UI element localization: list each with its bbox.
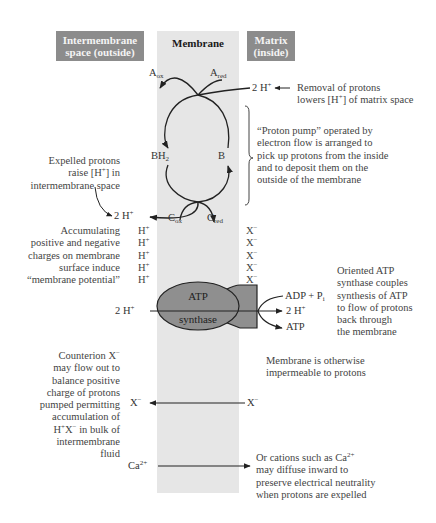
annotation-removal: Removal of protons lowers [H+] of matrix… — [297, 82, 414, 107]
label-c-red: Cred — [207, 212, 223, 223]
label-2h-matrix: 2 H+ — [252, 82, 271, 93]
atp-synthase-label-2: synthase — [158, 313, 238, 325]
annotation-cations: Or cations such as Ca2+ may diffuse inwa… — [256, 452, 376, 501]
label-b: B — [218, 150, 225, 161]
label-a-red: Ared — [210, 67, 227, 78]
annotation-impermeable: Membrane is otherwise impermeable to pro… — [266, 355, 366, 380]
h-plus-column: H+ H+ H+ H+ H+ — [138, 225, 150, 286]
annotation-counterion: Counterion X− may flow out to balance po… — [10, 350, 120, 461]
right-upper-arc — [198, 95, 229, 148]
x-minus-column: X− X− X− X− X− — [246, 225, 258, 286]
label-atp: ATP — [286, 321, 305, 332]
atp-synthase-label-1: ATP — [158, 290, 238, 302]
adp-to-atp-arrow — [258, 296, 283, 328]
left-lower-arc — [166, 165, 198, 202]
label-2h-intermembrane: 2 H+ — [114, 210, 133, 221]
right-lower-arc — [198, 166, 229, 202]
a-ox-arrow — [160, 78, 198, 95]
proton-uptake-line — [198, 88, 250, 95]
label-a-ox: Aox — [149, 67, 164, 78]
label-2h-synthase-in: 2 H+ — [115, 305, 134, 316]
label-x-minus-intermembrane: X− — [130, 397, 142, 408]
left-upper-arc — [165, 95, 198, 148]
label-adp-pi: ADP + Pi — [285, 290, 325, 301]
annotation-expelled: Expelled protons raise [H+] in intermemb… — [20, 155, 120, 192]
label-ca2-plus: Ca2+ — [128, 460, 147, 471]
label-2h-synthase-out: 2 H+ — [286, 305, 305, 316]
label-x-minus-matrix: X− — [247, 397, 259, 408]
proton-pump-brace — [245, 106, 253, 205]
label-c-ox: Cox — [168, 212, 182, 223]
annotation-proton-pump: “Proton pump” operated by electron flow … — [257, 125, 389, 186]
annotation-accumulating: Accumulating positive and negative charg… — [10, 225, 120, 286]
label-bh2: BH2 — [151, 150, 169, 161]
annotation-oriented: Oriented ATP synthase couples synthesis … — [337, 265, 413, 339]
